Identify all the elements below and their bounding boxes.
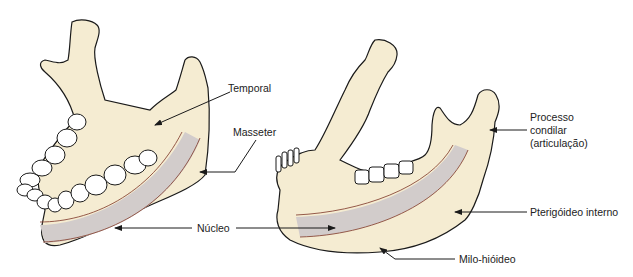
label-processo-1: Processo	[530, 111, 574, 123]
label-milo: Milo-hióideo	[459, 253, 516, 265]
label-temporal: Temporal	[228, 82, 271, 94]
left-mandible	[17, 20, 209, 246]
label-pterigoideo: Pterigóideo interno	[530, 206, 618, 218]
label-nucleo: Núcleo	[197, 222, 230, 234]
label-processo-3: (articulação)	[530, 137, 588, 149]
right-mandible	[276, 40, 499, 253]
label-masseter: Masseter	[233, 126, 276, 138]
label-processo-2: condilar	[530, 124, 567, 136]
